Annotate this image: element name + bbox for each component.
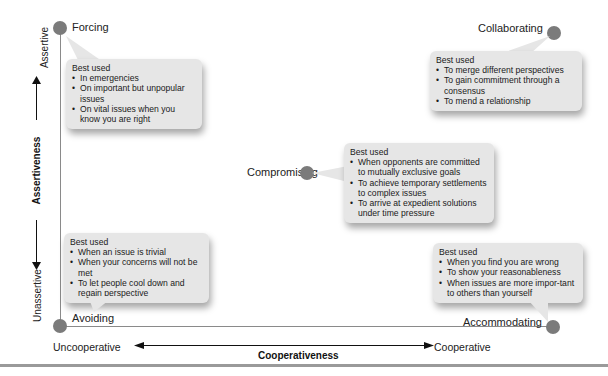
avoiding-dot [53,319,67,333]
accommodating-label: Accommodating [463,316,542,328]
accommodating-item: When issues are more impor-tant to other… [439,278,577,298]
y-arrow-up-line [36,80,37,120]
x-axis-right-label: Cooperative [434,341,491,353]
avoiding-callout: Best used When an issue is trivial When … [64,233,209,303]
arrow-right-icon [424,342,434,349]
collaborating-label: Collaborating [478,22,543,34]
x-arrow-line [140,345,428,346]
compromising-item: When opponents are committed to mutually… [350,157,488,177]
forcing-heading: Best used [72,63,196,73]
y-axis-title: Assertiveness [31,121,42,221]
forcing-item: On vital issues when you know you are ri… [72,104,196,124]
avoiding-label: Avoiding [72,312,114,324]
forcing-list: In emergencies On important but unpopula… [72,73,196,124]
compromising-item: To arrive at expedient solutions under t… [350,198,488,218]
forcing-callout: Best used In emergencies On important bu… [66,59,202,129]
y-axis-bottom-label: Unassertive [32,263,43,329]
compromising-heading: Best used [350,147,488,157]
collaborating-heading: Best used [436,55,576,65]
bottom-divider [0,364,608,367]
compromising-item: To achieve temporary settlements to comp… [350,178,488,198]
x-axis-title: Cooperativeness [258,350,339,361]
collaborating-item: To gain commitment through a consensus [436,75,576,95]
collaborating-list: To merge different perspectives To gain … [436,65,576,106]
compromising-list: When opponents are committed to mutually… [350,157,488,218]
avoiding-item: When an issue is trivial [70,247,203,257]
accommodating-dot [546,320,560,334]
avoiding-item: When your concerns will not be met [70,257,203,277]
forcing-dot [53,21,67,35]
compromising-callout-tail [312,166,348,182]
accommodating-item: To show your reasonableness [439,267,577,277]
forcing-label: Forcing [72,21,109,33]
collaborating-item: To mend a relationship [436,96,576,106]
y-axis-top-label: Assertive [39,18,50,78]
accommodating-item: When you find you are wrong [439,257,577,267]
avoiding-list: When an issue is trivial When your conce… [70,247,203,298]
forcing-item: On important but unpopular issues [72,83,196,103]
collaborating-callout: Best used To merge different perspective… [430,51,582,111]
accommodating-list: When you find you are wrong To show your… [439,257,577,298]
accommodating-heading: Best used [439,247,577,257]
y-arrow-down-line [36,220,37,264]
x-axis-left-label: Uncooperative [53,341,121,353]
arrow-up-icon [32,76,41,84]
accommodating-callout: Best used When you find you are wrong To… [433,243,583,303]
collaborating-item: To merge different perspectives [436,65,576,75]
forcing-item: In emergencies [72,73,196,83]
avoiding-callout-tail [88,296,114,312]
vertical-axis-line [60,28,61,326]
compromising-callout: Best used When opponents are committed t… [344,143,494,223]
avoiding-heading: Best used [70,237,203,247]
